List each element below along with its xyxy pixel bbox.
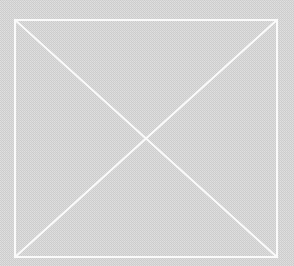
broken-image-placeholder — [0, 0, 294, 266]
placeholder-graphic — [0, 0, 294, 266]
